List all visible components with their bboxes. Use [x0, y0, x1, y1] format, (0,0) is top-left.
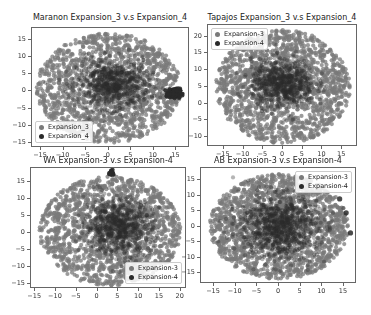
x-tick-label: −15 [27, 292, 41, 300]
x-tick-label: −10 [48, 292, 62, 300]
legend: Expansion_3Expansion_4 [35, 121, 93, 143]
y-tick-label: 5 [21, 211, 25, 219]
y-tick-label: 15 [187, 175, 195, 183]
x-tick-mark [63, 147, 64, 150]
plot-area: Expansion_3Expansion_4 [31, 27, 189, 147]
chart-title: Maranon Expansion_3 v.s Expansion_4 [31, 13, 189, 22]
y-tick-label: 5 [191, 206, 195, 214]
y-tick-label: 10 [18, 52, 26, 60]
y-tick-mark [28, 90, 31, 91]
x-tick-mark [159, 288, 160, 291]
legend-label: Expansion-3 [138, 264, 178, 273]
y-tick-label: −15 [181, 268, 195, 276]
legend-entry: Expansion_3 [39, 123, 89, 132]
x-tick-label: 15 [155, 292, 163, 300]
legend-entry: Expansion-3 [299, 173, 348, 182]
x-tick-mark [341, 146, 342, 149]
x-tick-mark [243, 146, 244, 149]
y-tick-mark [204, 136, 207, 137]
legend-entry: Expansion-3 [129, 264, 178, 273]
x-tick-label: 0 [94, 292, 98, 300]
y-tick-mark [27, 198, 30, 199]
y-tick-mark [204, 36, 207, 37]
legend-entry: Expansion-4 [215, 39, 264, 48]
y-tick-label: −15 [11, 279, 25, 287]
legend-entry: Expansion-4 [299, 182, 348, 191]
y-tick-label: 15 [194, 48, 202, 56]
y-tick-label: 5 [198, 82, 202, 90]
x-tick-mark [153, 147, 154, 150]
legend-label: Expansion-4 [138, 273, 178, 282]
x-tick-mark [235, 283, 236, 286]
y-tick-mark [27, 249, 30, 250]
legend-entry: Expansion-3 [215, 30, 264, 39]
legend-marker-icon [215, 32, 220, 37]
legend-label: Expansion_4 [48, 132, 89, 141]
legend-marker-icon [129, 275, 134, 280]
plot-area: Expansion-3Expansion-4 [30, 167, 186, 288]
legend-label: Expansion-4 [308, 182, 348, 191]
x-tick-mark [282, 146, 283, 149]
x-tick-label: −5 [252, 287, 262, 295]
x-tick-label: 15 [339, 287, 347, 295]
x-tick-mark [321, 146, 322, 149]
y-tick-mark [197, 272, 200, 273]
y-tick-mark [197, 226, 200, 227]
x-tick-label: 5 [115, 292, 119, 300]
x-tick-label: 0 [276, 287, 280, 295]
x-tick-label: −5 [71, 292, 81, 300]
legend-marker-icon [39, 134, 44, 139]
legend: Expansion-3Expansion-4 [125, 262, 182, 284]
x-tick-mark [302, 146, 303, 149]
x-tick-mark [108, 147, 109, 150]
y-tick-label: −5 [16, 104, 26, 112]
chart-title: AB Expansion-3 v.s Expansion-4 [200, 156, 356, 165]
chart-title: Tapajos Expansion_3 v.s Expansion_4 [207, 13, 357, 22]
legend-marker-icon [299, 184, 304, 189]
y-tick-mark [197, 179, 200, 180]
y-tick-label: −5 [192, 115, 202, 123]
x-tick-mark [138, 288, 139, 291]
legend-label: Expansion_3 [48, 123, 89, 132]
y-tick-label: 20 [194, 32, 202, 40]
y-tick-label: −5 [15, 245, 25, 253]
legend-label: Expansion-3 [308, 173, 348, 182]
y-tick-mark [28, 39, 31, 40]
x-tick-mark [343, 283, 344, 286]
y-tick-mark [28, 142, 31, 143]
y-tick-mark [204, 103, 207, 104]
y-tick-mark [28, 73, 31, 74]
legend-entry: Expansion-4 [129, 273, 178, 282]
x-tick-label: −15 [206, 287, 220, 295]
x-tick-label: 10 [317, 287, 325, 295]
x-tick-mark [223, 146, 224, 149]
y-tick-label: −10 [12, 121, 26, 129]
y-tick-mark [204, 52, 207, 53]
y-tick-mark [204, 119, 207, 120]
y-tick-mark [27, 232, 30, 233]
y-tick-mark [197, 257, 200, 258]
legend-label: Expansion-3 [224, 30, 264, 39]
y-tick-mark [27, 181, 30, 182]
y-tick-mark [27, 266, 30, 267]
y-tick-label: −5 [185, 237, 195, 245]
y-tick-mark [28, 108, 31, 109]
x-tick-mark [213, 283, 214, 286]
y-tick-label: 10 [194, 65, 202, 73]
y-tick-mark [27, 215, 30, 216]
x-tick-mark [40, 147, 41, 150]
y-tick-mark [28, 125, 31, 126]
y-tick-label: −10 [188, 132, 202, 140]
y-tick-mark [204, 69, 207, 70]
x-tick-mark [262, 146, 263, 149]
x-tick-mark [85, 147, 86, 150]
y-tick-label: 10 [187, 191, 195, 199]
legend: Expansion-3Expansion-4 [211, 28, 268, 50]
y-tick-label: 0 [198, 99, 202, 107]
y-tick-mark [28, 56, 31, 57]
x-tick-mark [256, 283, 257, 286]
y-tick-mark [197, 210, 200, 211]
chart-title: WA Expansion-3 v.s Expansion-4 [30, 156, 186, 165]
y-tick-label: 0 [191, 222, 195, 230]
y-tick-label: 10 [17, 194, 25, 202]
